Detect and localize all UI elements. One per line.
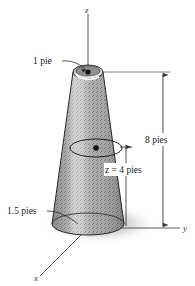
z-axis-label: z <box>84 5 89 15</box>
top-radius-label: 1 pie <box>33 56 52 66</box>
bottom-radius-label: 1.5 pies <box>7 206 37 216</box>
frustum-solid <box>52 65 124 235</box>
frustum-diagram: z y x <box>0 0 195 286</box>
cross-section-label: z = 4 pies <box>105 165 142 175</box>
height-dimension: 8 pies <box>144 75 182 225</box>
mid-center-dot <box>93 145 99 151</box>
x-axis-label: x <box>33 273 38 283</box>
y-axis-label: y <box>182 223 187 233</box>
top-center-dot <box>85 69 90 74</box>
frustum-lateral-shading <box>52 72 124 235</box>
height-dimension-label: 8 pies <box>145 135 168 145</box>
